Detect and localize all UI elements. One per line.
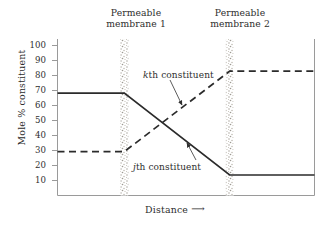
kth-constituent-leader-line <box>170 80 182 105</box>
permeable-membrane-2-label: Permeable membrane 2 <box>192 8 288 29</box>
y-axis-title-text: Mole % constituent <box>16 50 27 146</box>
kth-constituent-label: kth constituent <box>143 70 214 80</box>
permeable-membrane-1-label: Permeable membrane 1 <box>88 8 184 29</box>
x-axis-title: Distance⟶ <box>145 204 205 216</box>
chart-figure: Permeable membrane 1 Permeable membrane … <box>0 0 332 230</box>
permeable-membrane-1-band <box>120 39 128 196</box>
jth-constituent-label: jth constituent <box>133 162 201 172</box>
y-tick-label-10: 10 <box>22 175 46 185</box>
membrane-2-label-line2: membrane 2 <box>192 19 288 30</box>
x-axis-arrow-icon: ⟶ <box>191 204 205 215</box>
membrane-1-label-line1: Permeable <box>111 7 161 18</box>
series-kth-constituent <box>58 71 315 151</box>
membrane-2-label-line1: Permeable <box>215 7 265 18</box>
jth-constituent-label-text: th constituent <box>136 162 201 172</box>
chart-plot-area <box>0 0 332 230</box>
y-axis-ticks <box>52 46 58 181</box>
kth-constituent-label-text: th constituent <box>149 70 214 80</box>
membrane-1-label-line2: membrane 1 <box>88 19 184 30</box>
x-axis-title-text: Distance <box>145 204 188 215</box>
y-axis-title: Mole % constituent <box>16 33 27 163</box>
